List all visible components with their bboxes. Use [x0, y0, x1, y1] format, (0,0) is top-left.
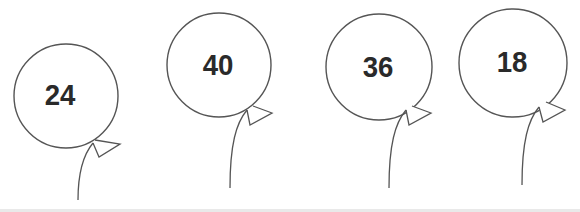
balloon-outline-icon — [430, 0, 580, 212]
balloon-36: 36 — [290, 0, 440, 212]
balloon-40: 40 — [150, 0, 300, 212]
balloon-outline-icon — [150, 0, 300, 212]
balloon-number: 36 — [327, 50, 428, 84]
balloon-number: 40 — [167, 48, 268, 82]
balloon-24: 24 — [0, 0, 150, 212]
bottom-divider — [0, 209, 580, 212]
balloon-number: 24 — [9, 78, 110, 112]
balloon-worksheet: 24 40 36 18 — [0, 0, 580, 212]
balloon-outline-icon — [290, 0, 440, 212]
balloon-18: 18 — [430, 0, 580, 212]
balloon-number: 18 — [461, 45, 562, 79]
